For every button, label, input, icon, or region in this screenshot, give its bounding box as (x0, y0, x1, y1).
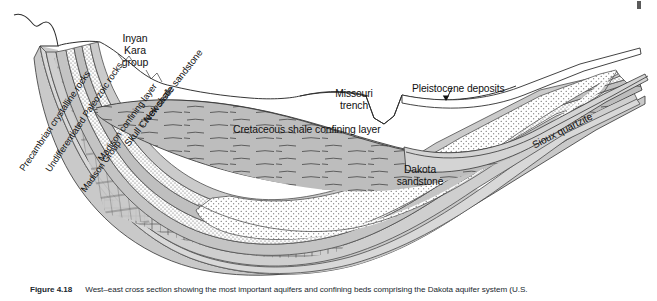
label-dakota-line2: sandstone (389, 176, 451, 188)
geologic-cross-section (0, 0, 657, 301)
label-inyan-kara-line2: Kara (104, 45, 166, 57)
label-missouri-trench: Missouri trench (323, 88, 385, 111)
label-cretaceous-shale-confining-layer: Cretaceous shale confining layer (233, 124, 381, 136)
figure-caption: Figure 4.18West–east cross section showi… (30, 285, 650, 294)
label-inyan-kara-line1: Inyan (104, 33, 166, 45)
label-missouri-trench-line1: Missouri (323, 88, 385, 100)
figure-number: Figure 4.18 (30, 285, 72, 294)
figure-caption-text: West–east cross section showing the most… (85, 285, 527, 294)
label-pleistocene-deposits: Pleistocene deposits (412, 83, 504, 95)
label-dakota-sandstone: Dakota sandstone (389, 164, 451, 187)
label-dakota-line1: Dakota (389, 164, 451, 176)
page-edge-mark (637, 1, 641, 9)
figure-container: Inyan Kara group Newcastle sandstone Sku… (0, 0, 657, 301)
label-missouri-trench-line2: trench (323, 100, 385, 112)
